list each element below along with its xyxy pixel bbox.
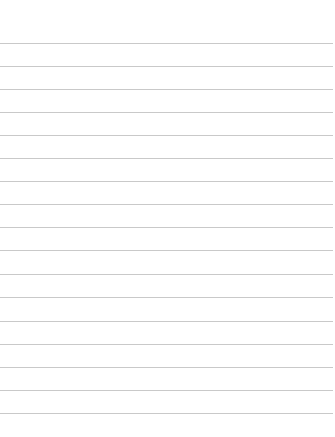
ruled-line — [0, 344, 333, 345]
ruled-line — [0, 413, 333, 414]
ruled-line — [0, 297, 333, 298]
ruled-line — [0, 158, 333, 159]
ruled-line — [0, 89, 333, 90]
ruled-line — [0, 204, 333, 205]
ruled-line — [0, 135, 333, 136]
ruled-line — [0, 227, 333, 228]
ruled-line — [0, 43, 333, 44]
ruled-line — [0, 321, 333, 322]
ruled-line — [0, 367, 333, 368]
ruled-line — [0, 274, 333, 275]
lined-paper — [0, 0, 335, 437]
ruled-line — [0, 390, 333, 391]
ruled-line — [0, 250, 333, 251]
ruled-line — [0, 112, 333, 113]
ruled-line — [0, 66, 333, 67]
ruled-line — [0, 181, 333, 182]
